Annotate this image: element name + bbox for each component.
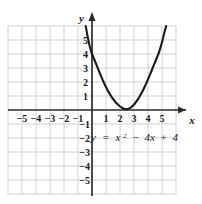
equation-equals: =	[103, 131, 109, 143]
x-tick-label: 4	[146, 113, 151, 124]
x-tick-label: −2	[59, 113, 70, 124]
equation-term1-exponent: 2	[123, 132, 127, 140]
y-axis-label: y	[77, 12, 84, 24]
y-tick-label: 5	[83, 35, 88, 46]
x-tick-label: −3	[45, 113, 56, 124]
x-tick-label: 2	[118, 113, 123, 124]
graph-figure: −5 −4 −3 −2 −1 1 2 3 4 5 5 4 3 2 1 −1 −2…	[0, 0, 202, 204]
x-axis-label: x	[188, 114, 195, 126]
x-tick-label: −5	[17, 113, 28, 124]
y-tick-label: −2	[79, 133, 90, 144]
y-axis-arrow	[89, 12, 96, 21]
y-tick-label: −1	[79, 119, 90, 130]
x-tick-label: −4	[31, 113, 42, 124]
x-axis-arrow	[178, 107, 186, 114]
y-tick-label: −3	[79, 147, 90, 158]
y-tick-label: −5	[79, 175, 90, 186]
equation-minus: −	[133, 131, 139, 143]
y-tick-label: 1	[83, 91, 88, 102]
equation-plus: +	[161, 131, 167, 143]
equation-term2: 4x	[144, 131, 155, 143]
equation-lhs: y	[90, 131, 96, 143]
x-tick-label: 3	[132, 113, 137, 124]
x-tick-label: 5	[160, 113, 165, 124]
x-tick-labels: −5 −4 −3 −2 −1 1 2 3 4 5	[17, 113, 165, 124]
equation-term3: 4	[173, 131, 179, 143]
coordinate-plane: −5 −4 −3 −2 −1 1 2 3 4 5 5 4 3 2 1 −1 −2…	[0, 0, 202, 204]
y-tick-label: 3	[83, 63, 88, 74]
y-tick-label: 4	[83, 49, 88, 60]
y-tick-label: 2	[83, 77, 88, 88]
x-tick-label: 1	[104, 113, 109, 124]
equation-term1-base: x	[115, 131, 121, 143]
y-tick-label: −4	[79, 161, 90, 172]
